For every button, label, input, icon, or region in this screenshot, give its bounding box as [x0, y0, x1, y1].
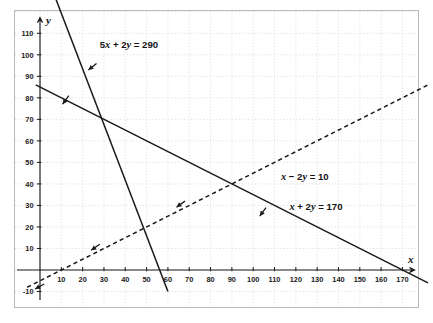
x-tick-label: 160: [375, 275, 387, 284]
y-tick-label: 60: [25, 137, 33, 146]
x-tick-label: 150: [354, 275, 366, 284]
y-tick-label: 110: [22, 29, 34, 38]
x-tick-label: 100: [247, 275, 259, 284]
y-tick-label: 30: [25, 201, 33, 210]
x-tick-label: 80: [206, 275, 214, 284]
coordinate-plane: 1020304050607080901001101201301401501601…: [0, 0, 433, 323]
x-tick-label: 30: [100, 275, 108, 284]
x-tick-label: 110: [269, 275, 281, 284]
x-tick-label: 10: [57, 275, 65, 284]
y-tick-label: 10: [25, 244, 33, 253]
y-tick-label: 40: [25, 180, 33, 189]
x-tick-label: 20: [79, 275, 87, 284]
y-tick-label: 20: [25, 223, 33, 232]
y-tick-label: 100: [21, 51, 33, 60]
x-tick-label: 130: [311, 275, 323, 284]
y-tick-label: 90: [25, 72, 33, 81]
x-tick-label: 140: [332, 275, 344, 284]
x-tick-label: 50: [142, 275, 150, 284]
x-tick-label: 120: [290, 275, 302, 284]
x-tick-label: 170: [396, 275, 408, 284]
y-tick-label: -10: [23, 287, 34, 296]
equation-label-0: 5x + 2y = 290: [100, 39, 158, 50]
x-tick-label: 90: [228, 275, 236, 284]
x-tick-label: 70: [185, 275, 193, 284]
equation-label-1: x + 2y = 170: [288, 201, 342, 212]
x-axis-label: x: [407, 253, 414, 265]
y-tick-label: 70: [25, 115, 33, 124]
graph-figure: 1020304050607080901001101201301401501601…: [0, 0, 433, 323]
equation-label-2: x − 2y = 10: [280, 171, 329, 182]
y-tick-label: 50: [25, 158, 33, 167]
y-tick-label: 80: [25, 94, 33, 103]
y-axis-label: y: [44, 14, 51, 26]
x-tick-label: 40: [121, 275, 129, 284]
